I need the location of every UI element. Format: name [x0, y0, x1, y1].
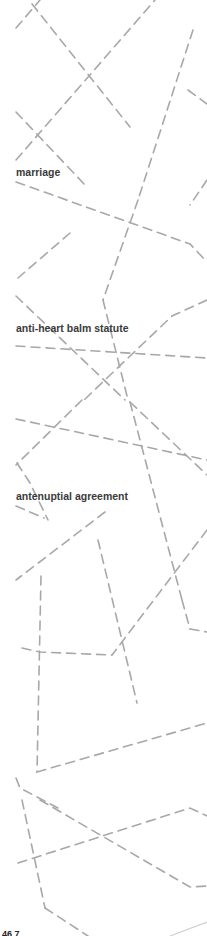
margin-term-anti-heart-balm-statute: anti-heart balm statute [16, 322, 129, 334]
decorative-dashed-lines [0, 0, 207, 936]
margin-term-marriage: marriage [16, 166, 60, 178]
margin-term-antenuptial-agreement: antenuptial agreement [16, 490, 128, 502]
page-number: 46 7 [2, 929, 20, 936]
